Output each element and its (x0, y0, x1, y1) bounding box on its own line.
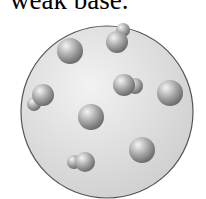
particle-single (129, 137, 155, 163)
particle-pair-big (32, 84, 54, 106)
particle-pair-big (106, 31, 128, 53)
particle-single (78, 104, 104, 130)
particle-pair-big (75, 152, 95, 172)
solution-diagram (0, 0, 206, 199)
particle-single (157, 80, 183, 106)
particle-pair-big (113, 74, 135, 96)
beaker-circle (21, 26, 193, 198)
particle-single (57, 38, 83, 64)
